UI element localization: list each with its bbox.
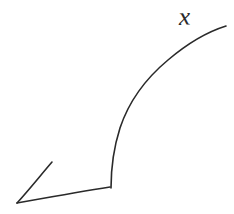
axis-label-x: x bbox=[178, 3, 191, 29]
baseline-stroke bbox=[17, 187, 110, 203]
rising-curve-stroke bbox=[111, 26, 226, 188]
sketch-canvas: x bbox=[0, 0, 234, 214]
arrow-upper-stroke bbox=[17, 162, 52, 203]
sketch-drawing bbox=[0, 0, 234, 214]
